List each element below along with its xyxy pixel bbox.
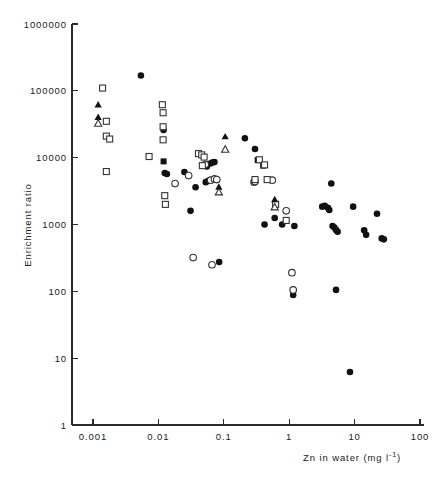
x-axis-title-group: Zn in water (mg l-1) bbox=[303, 451, 401, 463]
x-axis-title-main: Zn in water (mg l bbox=[303, 452, 389, 463]
data-point-filled-circle bbox=[333, 287, 340, 294]
data-point-open-square bbox=[262, 162, 268, 168]
data-point-filled-circle bbox=[350, 203, 357, 210]
data-point-filled-circle bbox=[326, 207, 333, 214]
data-point-filled-circle bbox=[192, 184, 199, 191]
data-point-open-square bbox=[160, 110, 166, 116]
y-tick-label: 1000 bbox=[42, 219, 67, 230]
data-point-open-square bbox=[252, 177, 258, 183]
data-point-open-square bbox=[162, 201, 168, 207]
x-tick-label: 100 bbox=[411, 431, 430, 442]
data-point-open-square bbox=[160, 124, 166, 130]
data-point-open-circle bbox=[289, 269, 296, 276]
y-tick-label: 100000 bbox=[30, 85, 67, 96]
data-point-filled-circle bbox=[216, 259, 223, 266]
data-point-open-circle bbox=[172, 180, 179, 187]
x-tick-label: 1 bbox=[286, 431, 292, 442]
x-axis-title: Zn in water (mg l-1) bbox=[303, 451, 401, 463]
x-axis-title-tail: ) bbox=[397, 452, 401, 463]
data-point-filled-circle bbox=[261, 221, 268, 228]
y-tick-label: 10 bbox=[55, 353, 67, 364]
y-axis-title-group: Enrichment ratio bbox=[22, 183, 33, 267]
y-tick-label: 1 bbox=[61, 420, 67, 431]
data-point-open-circle bbox=[213, 176, 220, 183]
data-point-open-square bbox=[107, 136, 113, 142]
data-point-filled-circle bbox=[334, 228, 341, 235]
data-point-filled-circle bbox=[187, 208, 194, 215]
data-point-open-square bbox=[103, 118, 109, 124]
x-tick-label: 0.01 bbox=[147, 431, 169, 442]
data-point-open-square bbox=[160, 137, 166, 143]
data-point-open-circle bbox=[190, 254, 197, 261]
data-point-filled-circle bbox=[328, 180, 335, 187]
data-point-open-square bbox=[201, 154, 207, 160]
data-point-filled-circle bbox=[347, 369, 354, 376]
y-axis-title: Enrichment ratio bbox=[22, 183, 33, 267]
data-point-filled-circle bbox=[252, 146, 259, 153]
x-tick-label: 0.001 bbox=[79, 431, 107, 442]
enrichment-ratio-scatter-chart: 1101001000100001000001000000 0.0010.010.… bbox=[0, 0, 442, 479]
data-point-open-square bbox=[199, 163, 205, 169]
data-point-open-square bbox=[283, 217, 289, 223]
data-point-filled-circle bbox=[381, 236, 388, 243]
x-tick-label: 0.1 bbox=[216, 431, 232, 442]
y-tick-label: 10000 bbox=[36, 152, 67, 163]
data-point-filled-circle bbox=[291, 223, 298, 230]
data-point-filled-circle bbox=[242, 135, 249, 142]
data-point-filled-circle bbox=[271, 215, 278, 222]
data-point-filled-square bbox=[161, 158, 167, 164]
data-point-open-square bbox=[100, 85, 106, 91]
data-point-open-square bbox=[146, 154, 152, 160]
y-tick-label: 100 bbox=[48, 286, 67, 297]
data-point-open-square bbox=[159, 102, 165, 108]
data-point-open-circle bbox=[209, 261, 216, 268]
data-point-filled-circle bbox=[138, 72, 145, 79]
data-point-open-square bbox=[103, 169, 109, 175]
data-point-open-circle bbox=[290, 287, 297, 294]
chart-background bbox=[0, 0, 442, 479]
data-point-open-square bbox=[264, 177, 270, 183]
data-point-filled-circle bbox=[363, 232, 370, 239]
y-tick-label: 1000000 bbox=[24, 19, 67, 30]
data-point-open-circle bbox=[283, 208, 290, 215]
data-point-open-circle bbox=[185, 172, 192, 179]
data-point-filled-circle bbox=[211, 159, 218, 166]
data-point-filled-circle bbox=[164, 171, 171, 178]
x-tick-label: 10 bbox=[348, 431, 360, 442]
data-point-open-square bbox=[162, 193, 168, 199]
x-axis-title-superscript: -1 bbox=[389, 451, 397, 458]
data-point-filled-circle bbox=[374, 210, 381, 217]
